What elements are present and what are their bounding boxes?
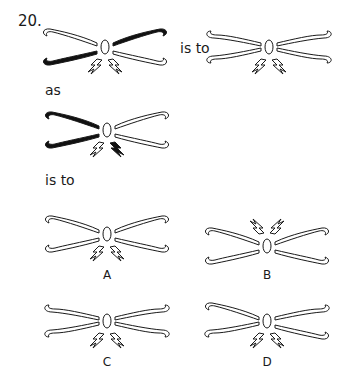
option-d-label[interactable]: D [257,355,277,369]
is-to-text-1: is to [180,40,210,56]
as-text: as [45,82,61,98]
option-c-label[interactable]: C [97,355,117,369]
option-c-figure[interactable] [107,321,108,322]
question-number: 20. [18,12,42,30]
stem-figure-3 [107,130,108,131]
option-a-figure[interactable] [107,234,108,235]
stem-figure-2 [269,47,270,48]
option-b-figure[interactable] [267,246,268,247]
stem-figure-1 [105,47,106,48]
is-to-text-2: is to [45,172,75,188]
option-a-label[interactable]: A [97,268,117,282]
option-b-label[interactable]: B [257,268,277,282]
option-d-figure[interactable] [267,321,268,322]
